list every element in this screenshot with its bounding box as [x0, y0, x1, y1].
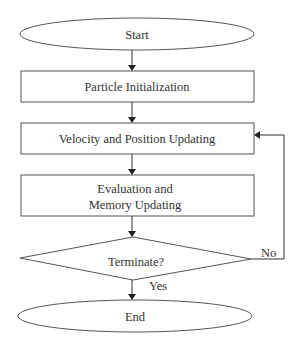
no-label: No — [261, 246, 276, 260]
update-label: Velocity and Position Updating — [59, 132, 216, 146]
arrowhead-icon — [128, 231, 136, 237]
evaluate-label-line2: Memory Updating — [89, 198, 182, 212]
update-node: Velocity and Position Updating — [21, 123, 254, 154]
end-label: End — [125, 310, 146, 324]
decision-node: Terminate? — [20, 237, 251, 280]
arrowhead-icon — [128, 65, 136, 71]
start-node: Start — [20, 18, 254, 50]
arrowhead-icon — [128, 169, 136, 175]
arrowhead-icon — [128, 294, 136, 300]
arrowhead-icon — [128, 117, 136, 123]
decision-label: Terminate? — [108, 255, 164, 269]
init-node: Particle Initialization — [21, 71, 254, 102]
start-label: Start — [125, 28, 149, 42]
edge-no-loop — [251, 135, 284, 259]
yes-label: Yes — [149, 279, 167, 293]
evaluate-label-line1: Evaluation and — [97, 182, 173, 196]
end-node: End — [18, 300, 252, 332]
arrowhead-icon — [254, 131, 260, 139]
init-label: Particle Initialization — [84, 80, 190, 94]
pso-flowchart: Start Particle Initialization Velocity a… — [0, 0, 297, 348]
evaluate-node: Evaluation and Memory Updating — [21, 175, 254, 216]
